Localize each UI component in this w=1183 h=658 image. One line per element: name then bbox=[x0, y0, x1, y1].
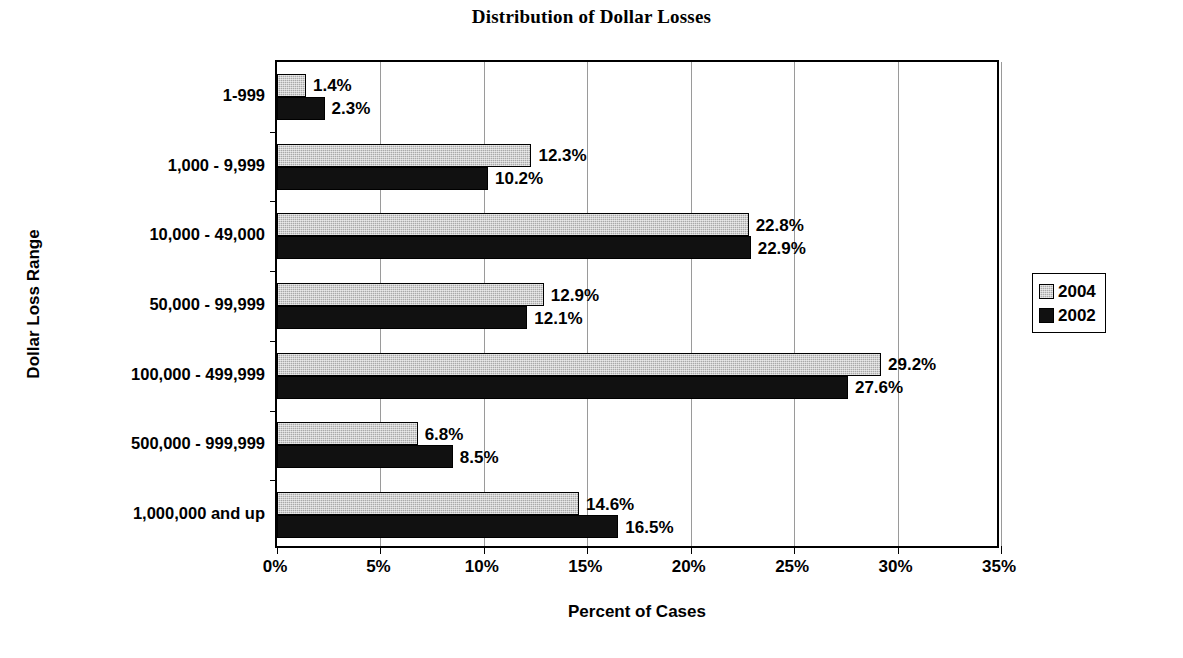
x-axis-tick bbox=[794, 546, 795, 554]
bar-2002-500-000-999-999 bbox=[277, 445, 453, 468]
bar-2004-1-000-000-and-up bbox=[277, 492, 579, 515]
y-axis-tick bbox=[270, 480, 277, 481]
x-axis-tick-label: 0% bbox=[235, 558, 315, 575]
x-axis-tick-label: 15% bbox=[545, 558, 625, 575]
chart-legend: 20042002 bbox=[1032, 273, 1106, 333]
y-axis-tick bbox=[270, 341, 277, 342]
x-axis-tick-label: 5% bbox=[338, 558, 418, 575]
bar-2004-10-000-49-000 bbox=[277, 213, 749, 236]
x-axis-tick bbox=[587, 546, 588, 554]
chart-title: Distribution of Dollar Losses bbox=[0, 6, 1183, 28]
bar-2002-50-000-99-999 bbox=[277, 306, 527, 329]
bar-2002-1-999 bbox=[277, 97, 325, 120]
plot-area: 1.4%2.3%12.3%10.2%22.8%22.9%12.9%12.1%29… bbox=[275, 60, 999, 548]
bar-2002-1-000-9-999 bbox=[277, 167, 488, 190]
bar-value-label: 22.9% bbox=[758, 240, 806, 257]
x-axis-tick bbox=[277, 546, 278, 554]
x-axis-tick-label: 20% bbox=[649, 558, 729, 575]
x-axis-tick bbox=[898, 546, 899, 554]
chart-container: Distribution of Dollar Losses Dollar Los… bbox=[0, 0, 1183, 658]
gridline bbox=[794, 62, 795, 546]
y-axis-category-label: 1,000,000 and up bbox=[80, 505, 265, 522]
legend-item[interactable]: 2004 bbox=[1039, 279, 1096, 303]
bar-2004-100-000-499-999 bbox=[277, 353, 881, 376]
bar-value-label: 8.5% bbox=[460, 449, 499, 466]
y-axis-category-label: 100,000 - 499,999 bbox=[80, 366, 265, 383]
y-axis-category-label: 1,000 - 9,999 bbox=[80, 157, 265, 174]
bar-2002-10-000-49-000 bbox=[277, 236, 751, 259]
x-axis-tick-label: 10% bbox=[442, 558, 522, 575]
legend-swatch-icon bbox=[1039, 284, 1054, 299]
gridline bbox=[691, 62, 692, 546]
bar-value-label: 22.8% bbox=[756, 217, 804, 234]
bar-2002-1-000-000-and-up bbox=[277, 515, 618, 538]
x-axis-tick bbox=[691, 546, 692, 554]
y-axis-category-label: 1-999 bbox=[80, 87, 265, 104]
x-axis-tick bbox=[484, 546, 485, 554]
x-axis-tick bbox=[1001, 546, 1002, 554]
x-axis-tick-label: 25% bbox=[752, 558, 832, 575]
y-axis-category-label: 500,000 - 999,999 bbox=[80, 435, 265, 452]
bar-value-label: 6.8% bbox=[425, 426, 464, 443]
bar-2004-50-000-99-999 bbox=[277, 283, 544, 306]
legend-item[interactable]: 2002 bbox=[1039, 303, 1096, 327]
bar-value-label: 12.1% bbox=[534, 310, 582, 327]
bar-value-label: 10.2% bbox=[495, 170, 543, 187]
x-axis-tick-label: 35% bbox=[959, 558, 1039, 575]
x-axis-tick bbox=[380, 546, 381, 554]
bar-value-label: 2.3% bbox=[332, 100, 371, 117]
y-axis-category-label: 50,000 - 99,999 bbox=[80, 296, 265, 313]
x-axis-title: Percent of Cases bbox=[275, 602, 999, 622]
legend-swatch-icon bbox=[1039, 308, 1054, 323]
y-axis-tick bbox=[270, 271, 277, 272]
gridline bbox=[898, 62, 899, 546]
bar-2002-100-000-499-999 bbox=[277, 376, 848, 399]
bar-2004-1-000-9-999 bbox=[277, 144, 531, 167]
legend-label: 2004 bbox=[1058, 283, 1096, 300]
bar-value-label: 12.9% bbox=[551, 287, 599, 304]
y-axis-title: Dollar Loss Range bbox=[24, 214, 44, 394]
y-axis-category-label: 10,000 - 49,000 bbox=[80, 226, 265, 243]
bar-value-label: 29.2% bbox=[888, 356, 936, 373]
bar-2004-1-999 bbox=[277, 74, 306, 97]
y-axis-tick bbox=[270, 201, 277, 202]
bar-value-label: 14.6% bbox=[586, 496, 634, 513]
bar-value-label: 1.4% bbox=[313, 77, 352, 94]
gridline bbox=[1001, 62, 1002, 546]
bar-value-label: 16.5% bbox=[625, 519, 673, 536]
x-axis-tick-label: 30% bbox=[856, 558, 936, 575]
y-axis-tick bbox=[270, 132, 277, 133]
bar-2004-500-000-999-999 bbox=[277, 422, 418, 445]
legend-label: 2002 bbox=[1058, 307, 1096, 324]
bar-value-label: 27.6% bbox=[855, 379, 903, 396]
bar-value-label: 12.3% bbox=[538, 147, 586, 164]
y-axis-tick bbox=[270, 411, 277, 412]
